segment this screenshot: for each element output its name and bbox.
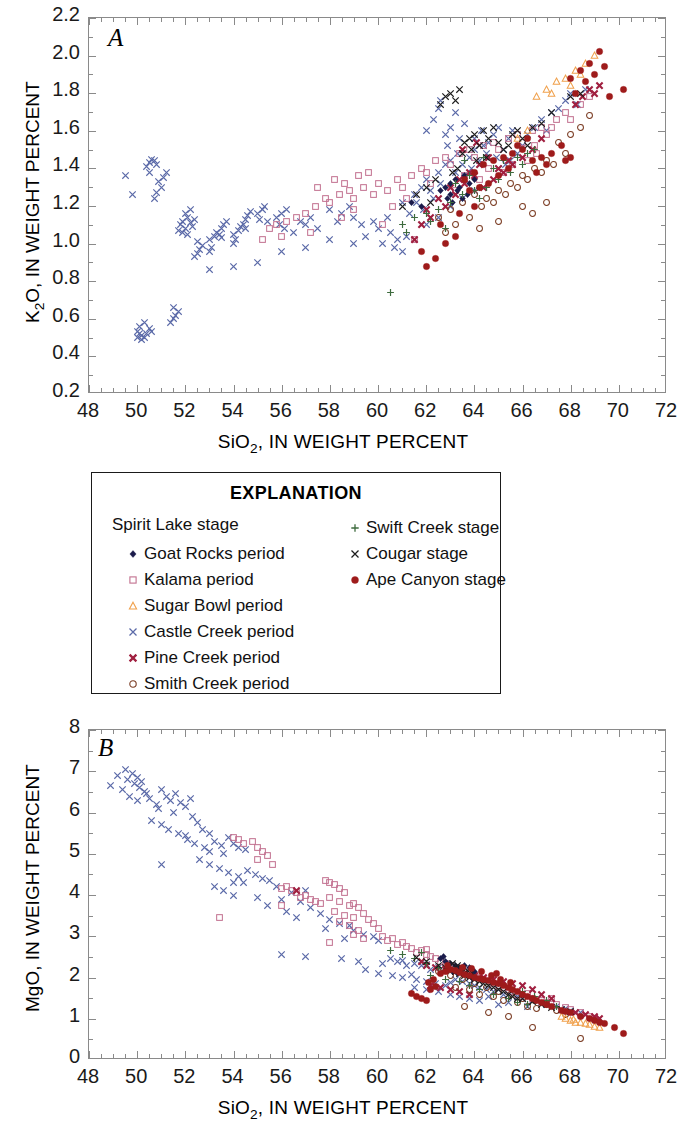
legend-column-left: Spirit Lake stage Goat Rocks periodKalam… (110, 515, 294, 697)
y-tick (89, 187, 93, 188)
data-point (305, 227, 316, 238)
data-point (546, 88, 557, 99)
x-tick (462, 1054, 463, 1058)
x-tick (354, 18, 355, 22)
x-tick (378, 730, 379, 737)
x-tick (330, 1051, 331, 1058)
data-point (409, 212, 420, 223)
x-tick (486, 388, 487, 392)
x-tick (113, 18, 114, 22)
x-tick (583, 388, 584, 392)
x-tick (330, 730, 331, 737)
legend-item-castle-creek-period[interactable]: Castle Creek period (110, 619, 294, 645)
data-point (584, 110, 595, 121)
y-tick (661, 300, 665, 301)
x-tick (221, 730, 222, 734)
x-tick-label: 56 (258, 399, 304, 422)
y-tick (89, 771, 96, 772)
y-tick (89, 93, 96, 94)
x-tick-label: 70 (595, 399, 641, 422)
x-tick (318, 18, 319, 22)
x-tick (270, 730, 271, 734)
data-point (536, 118, 547, 129)
y-tick (89, 300, 93, 301)
x-tick (234, 18, 235, 25)
x-tick (474, 1051, 475, 1058)
x-tick (89, 18, 90, 25)
y-tick (661, 225, 665, 226)
y-tick (658, 131, 665, 132)
x-tick (655, 730, 656, 734)
x-tick (161, 388, 162, 392)
data-point (214, 912, 225, 923)
x-tick-label: 52 (161, 1065, 207, 1088)
x-tick (342, 1054, 343, 1058)
x-tick (246, 18, 247, 22)
x-tick-label: 58 (306, 1065, 352, 1088)
y-tick (89, 74, 93, 75)
data-point (204, 264, 215, 275)
data-point (580, 76, 591, 87)
y-axis-title-b: MgO, IN WEIGHT PERCENT (22, 764, 44, 1012)
x-tick (209, 388, 210, 392)
y-tick (661, 792, 665, 793)
y-tick (89, 338, 93, 339)
x-tick (330, 18, 331, 25)
x-thin-dark-icon (344, 548, 366, 560)
data-point (185, 204, 196, 215)
y-axis-title-a: K2O, IN WEIGHT PERCENT (22, 81, 47, 323)
data-point (464, 185, 475, 196)
y-tick (658, 56, 665, 57)
y-tick-label: 6 (10, 798, 80, 821)
x-tick (209, 730, 210, 734)
x-tick (559, 388, 560, 392)
data-point (565, 152, 576, 163)
y-tick (658, 356, 665, 357)
panel-letter-b: B (98, 734, 113, 762)
x-tick (402, 388, 403, 392)
x-tick (498, 1054, 499, 1058)
x-tick (282, 730, 283, 737)
data-point (117, 784, 128, 795)
y-tick (661, 375, 665, 376)
y-tick (89, 375, 93, 376)
y-tick (658, 206, 665, 207)
data-point (339, 178, 350, 189)
data-point (348, 193, 359, 204)
x-tick (294, 1054, 295, 1058)
x-tick-label: 72 (643, 1065, 686, 1088)
x-tick-label: 68 (547, 399, 593, 422)
diamond-filled-icon (122, 548, 144, 560)
data-point (373, 968, 384, 979)
legend-item-goat-rocks-period[interactable]: Goat Rocks period (110, 541, 294, 567)
legend-item-label: Sugar Bowl period (144, 596, 283, 616)
x-tick (474, 385, 475, 392)
y-tick (89, 319, 96, 320)
legend-item-cougar-stage[interactable]: Cougar stage (344, 541, 506, 567)
data-point (276, 231, 287, 242)
data-point (385, 945, 396, 956)
legend-item-kalama-period[interactable]: Kalama period (110, 567, 294, 593)
x-tick-label: 54 (210, 1065, 256, 1088)
x-tick (342, 730, 343, 734)
x-tick (258, 730, 259, 734)
data-point (173, 225, 184, 236)
legend-item-pine-creek-period[interactable]: Pine Creek period (110, 645, 294, 671)
y-tick (89, 813, 96, 814)
legend-item-sugar-bowl-period[interactable]: Sugar Bowl period (110, 593, 294, 619)
x-tick-label: 72 (643, 399, 686, 422)
data-point (541, 159, 552, 170)
x-tick-label: 60 (354, 1065, 400, 1088)
x-tick (306, 388, 307, 392)
x-tick-label: 54 (210, 399, 256, 422)
legend-item-swift-creek-stage[interactable]: Swift Creek stage (344, 515, 506, 541)
y-tick (89, 168, 96, 169)
y-tick (658, 18, 665, 19)
legend-item-ape-canyon-stage[interactable]: Ape Canyon stage (344, 567, 506, 593)
y-tick-label: 8 (10, 715, 80, 738)
x-tick (149, 388, 150, 392)
x-tick (173, 1054, 174, 1058)
legend-item-smith-creek-period[interactable]: Smith Creek period (110, 671, 294, 697)
x-tick (149, 18, 150, 22)
x-tick (270, 1054, 271, 1058)
